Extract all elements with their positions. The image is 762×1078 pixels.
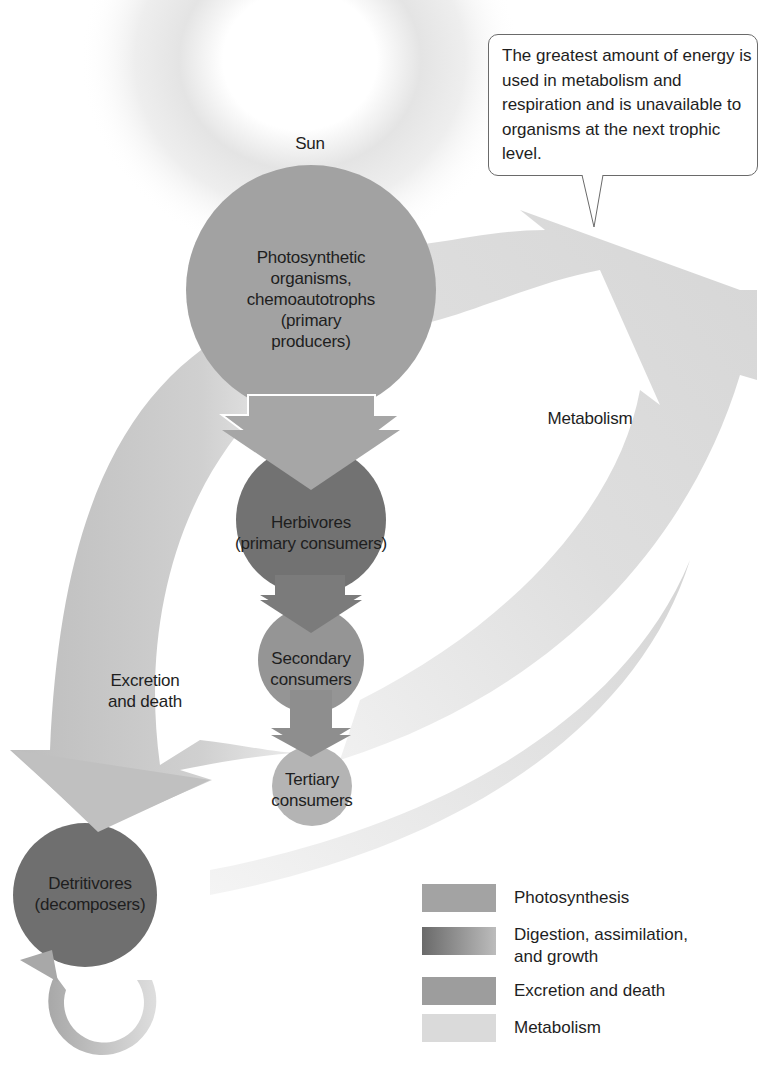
detritivores-label: Detritivores (decomposers) [20,873,160,915]
producers-line-2: organisms, [211,268,411,289]
secondary-label: Secondary consumers [241,648,381,690]
legend-swatch-metabolism [422,1014,496,1042]
detritivores-line-2: (decomposers) [20,894,160,915]
excretion-line-1: Excretion [90,670,200,691]
tertiary-label: Tertiary consumers [252,769,372,811]
tertiary-line-1: Tertiary [252,769,372,790]
legend-item-digestion: Digestion, assimilation, and growth [422,921,694,968]
detritivores-line-1: Detritivores [20,873,160,894]
herbivores-line-1: Herbivores [201,512,421,533]
producers-line-1: Photosynthetic [211,247,411,268]
legend-item-photosynthesis: Photosynthesis [422,884,694,912]
legend-swatch-photosynthesis [422,884,496,912]
legend: Photosynthesis Digestion, assimilation, … [422,884,694,1051]
legend-item-excretion: Excretion and death [422,977,694,1005]
secondary-line-1: Secondary [241,648,381,669]
producers-line-5: producers) [211,331,411,352]
legend-swatch-digestion [422,927,496,955]
recycle-loop-arrow [48,975,156,1055]
legend-label-metabolism: Metabolism [514,1017,601,1039]
excretion-flow-label: Excretion and death [90,670,200,712]
legend-item-metabolism: Metabolism [422,1014,694,1042]
legend-swatch-excretion [422,977,496,1005]
legend-label-photosynthesis: Photosynthesis [514,887,629,909]
excretion-line-2: and death [90,691,200,712]
metabolism-flow-label: Metabolism [530,408,650,429]
producers-label: Photosynthetic organisms, chemoautotroph… [211,247,411,352]
producers-line-3: chemoautotrophs [211,289,411,310]
recycle-loop-arrowhead [20,950,58,982]
callout-tail [580,172,610,232]
secondary-line-2: consumers [241,669,381,690]
legend-label-digestion: Digestion, assimilation, and growth [514,924,694,968]
herbivores-line-2: (primary consumers) [201,533,421,554]
tertiary-line-2: consumers [252,790,372,811]
sun-label: Sun [280,133,340,154]
legend-label-excretion: Excretion and death [514,980,665,1002]
producers-line-4: (primary [211,310,411,331]
herbivores-label: Herbivores (primary consumers) [201,512,421,554]
callout-text: The greatest amount of energy is used in… [502,44,762,167]
